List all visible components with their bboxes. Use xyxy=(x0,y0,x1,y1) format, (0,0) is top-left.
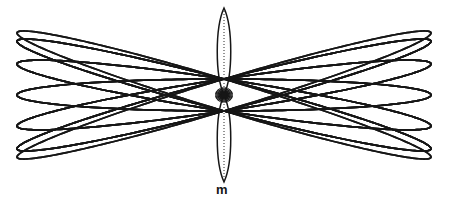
node-point-marker xyxy=(221,92,227,98)
node-point-label: m xyxy=(0,182,450,197)
ellipse-lattice-figure xyxy=(0,0,450,204)
node-point-label-text: m xyxy=(216,182,228,197)
figure-container: m xyxy=(0,0,450,204)
